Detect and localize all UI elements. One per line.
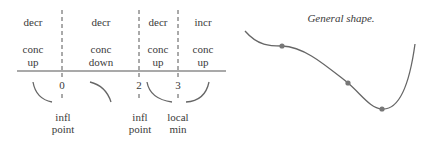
general-shape-curve bbox=[245, 31, 415, 109]
critical-point-2-note-line1: infl bbox=[120, 111, 160, 123]
interval-1-concavity-line1: conc bbox=[13, 43, 53, 55]
graph-title: General shape. bbox=[307, 12, 374, 24]
local-min-dot bbox=[379, 106, 384, 111]
critical-point-3-label: 3 bbox=[174, 79, 182, 91]
interval-4-monotonic: incr bbox=[183, 16, 223, 28]
interval-3-monotonic: decr bbox=[138, 16, 178, 28]
critical-point-2-note-line2: point bbox=[120, 123, 160, 135]
arc-conc-down bbox=[90, 82, 111, 102]
critical-point-0-note-line1: infl bbox=[43, 111, 83, 123]
inflection-point-dot-2 bbox=[345, 80, 350, 85]
interval-4-concavity-line2: up bbox=[183, 56, 223, 68]
arc-conc-up-2 bbox=[147, 82, 172, 102]
critical-point-3-note-line1: local bbox=[158, 111, 198, 123]
arc-conc-up-1 bbox=[33, 82, 52, 102]
critical-point-0-label: 0 bbox=[58, 79, 66, 91]
interval-1-concavity-line2: up bbox=[13, 56, 53, 68]
interval-2-concavity-line1: conc bbox=[81, 43, 121, 55]
interval-3-concavity-line1: conc bbox=[138, 43, 178, 55]
interval-2-monotonic: decr bbox=[81, 16, 121, 28]
critical-point-3-note-line2: min bbox=[158, 123, 198, 135]
interval-1-monotonic: decr bbox=[13, 16, 53, 28]
interval-4-concavity-line1: conc bbox=[183, 43, 223, 55]
critical-point-2-label: 2 bbox=[135, 79, 143, 91]
arc-conc-up-3 bbox=[186, 82, 209, 102]
critical-point-0-note-line2: point bbox=[43, 123, 83, 135]
interval-3-concavity-line2: up bbox=[138, 56, 178, 68]
inflection-point-dot-1 bbox=[279, 43, 284, 48]
interval-2-concavity-line2: down bbox=[81, 56, 121, 68]
